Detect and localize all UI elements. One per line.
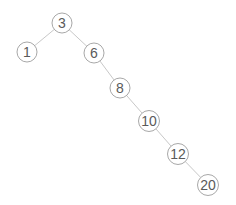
node-6: 6 [84, 43, 104, 63]
node-label: 1 [23, 44, 31, 60]
node-8: 8 [110, 78, 130, 98]
node-12: 12 [168, 144, 189, 165]
node-label: 6 [90, 45, 98, 61]
node-label: 8 [116, 80, 124, 96]
node-1: 1 [17, 42, 37, 62]
node-20: 20 [198, 175, 219, 196]
node-label: 3 [58, 15, 66, 31]
node-10: 10 [139, 111, 160, 132]
tree-diagram: 3 1 6 8 10 12 20 [0, 0, 236, 205]
node-label: 12 [170, 146, 186, 162]
node-label: 10 [141, 113, 157, 129]
node-3: 3 [52, 13, 72, 33]
node-label: 20 [200, 177, 216, 193]
